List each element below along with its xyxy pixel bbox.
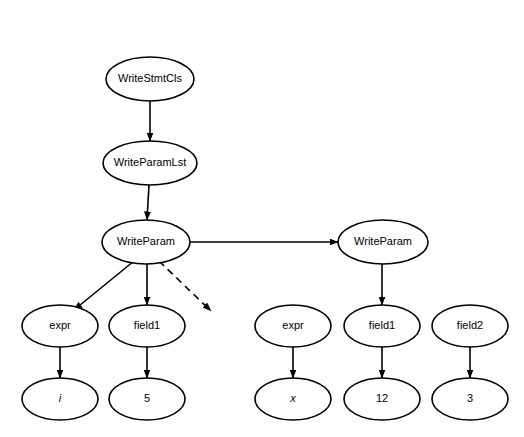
graph-node[interactable]: field2 xyxy=(432,305,508,347)
node-label: 12 xyxy=(376,392,388,404)
graph-node[interactable]: field1 xyxy=(344,305,420,347)
graph-node[interactable]: WriteParamLst xyxy=(103,141,197,185)
node-label: field2 xyxy=(457,319,483,331)
graph-node[interactable]: 3 xyxy=(432,378,508,420)
graph-node[interactable]: 12 xyxy=(344,378,420,420)
parse-tree-graph: WriteStmtClsWriteParamLstWriteParamWrite… xyxy=(0,0,524,437)
node-label: expr xyxy=(49,319,71,331)
graph-edge xyxy=(74,261,134,310)
graph-node[interactable]: i xyxy=(22,378,98,420)
node-label: field1 xyxy=(369,319,395,331)
graph-node[interactable]: WriteParam xyxy=(102,220,190,264)
graph-node[interactable]: expr xyxy=(255,305,331,347)
node-label: field1 xyxy=(134,319,160,331)
node-label: WriteParam xyxy=(117,235,175,247)
graph-edge xyxy=(159,261,211,311)
graph-node[interactable]: x xyxy=(255,378,331,420)
node-label: 3 xyxy=(467,392,473,404)
diagram-canvas: WriteStmtClsWriteParamLstWriteParamWrite… xyxy=(0,0,524,437)
node-label: WriteParamLst xyxy=(114,156,187,168)
node-label: x xyxy=(289,392,296,404)
node-label: expr xyxy=(282,319,304,331)
nodes-layer: WriteStmtClsWriteParamLstWriteParamWrite… xyxy=(22,57,508,420)
graph-node[interactable]: 5 xyxy=(109,378,185,420)
node-label: WriteStmtCls xyxy=(118,72,182,84)
graph-node[interactable]: WriteStmtCls xyxy=(106,57,194,101)
node-label: WriteParam xyxy=(354,235,412,247)
graph-node[interactable]: field1 xyxy=(109,305,185,347)
graph-node[interactable]: WriteParam xyxy=(338,220,428,264)
graph-node[interactable]: expr xyxy=(22,305,98,347)
graph-edge xyxy=(147,185,149,220)
node-label: 5 xyxy=(144,392,150,404)
